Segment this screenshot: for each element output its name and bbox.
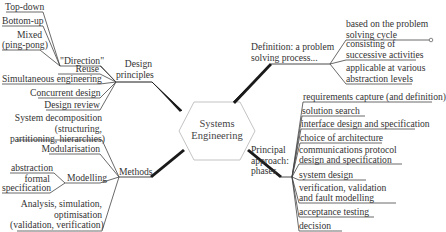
modelling-specification: specification [2, 183, 50, 194]
approach-title: Principal approach: phases [251, 145, 289, 177]
method-modelling: Modelling [67, 173, 107, 184]
definition-title: Definition: a problem solving process... [251, 42, 334, 63]
modelling-abstraction: abstraction [8, 163, 53, 174]
definition-item-based-on: based on the problem solving cycle [346, 19, 428, 40]
method-analysis: Analysis, simulation, optimisation (vali… [10, 199, 102, 231]
phase-solution-search: solution search [302, 106, 360, 117]
direction-item-bottom-up: Bottom-up [2, 16, 43, 27]
phase-system-design: system design [299, 170, 353, 181]
phase-choice-architecture: choice of architecture [300, 133, 383, 144]
definition-item-consisting: consisting of successive activities [346, 39, 424, 60]
direction-item-ping-pong: (ping-pong) [2, 40, 42, 51]
phase-decision: decision [299, 221, 331, 232]
phase-interface-design: interface design and specification [301, 119, 430, 130]
center-title-line2: Engineering [189, 130, 245, 142]
principle-concurrent-design: Concurrent design [30, 88, 100, 99]
definition-item-applicable: applicable at various abstraction levels [346, 63, 425, 84]
phase-acceptance-testing: acceptance testing [299, 207, 369, 218]
center-node: Systems Engineering [189, 118, 245, 142]
method-modularisation: Modularisation [40, 144, 100, 155]
branch-design-principles [116, 82, 182, 111]
phase-verification-line2: and fault modelling [299, 193, 374, 204]
center-title-line1: Systems [189, 118, 245, 130]
phase-communications-line2: design and specification [299, 155, 392, 166]
thick-branch-design [152, 82, 182, 112]
principle-simultaneous-engineering: Simultaneous engineering [2, 74, 100, 85]
methods-title: Methods [119, 167, 153, 178]
design-principles-title: Design principles [116, 59, 152, 80]
phase-requirements: requirements capture (and definition) [303, 92, 446, 103]
principle-design-review: Design review [40, 100, 100, 111]
method-system-decomposition: System decomposition (structuring, parti… [10, 113, 102, 145]
direction-item-top-down: Top-down [5, 2, 44, 13]
